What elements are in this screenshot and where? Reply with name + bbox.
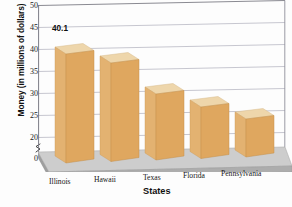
y-tick-45: 45 xyxy=(16,23,38,32)
x-tick-florida: Florida xyxy=(183,171,205,180)
y-tick-0: 0 xyxy=(16,154,38,163)
bar-illinois[interactable] xyxy=(55,44,94,164)
bar-value-illinois: 40.1 xyxy=(52,24,68,33)
x-tick-illinois: Illinois xyxy=(49,177,71,186)
x-axis-title: States xyxy=(143,186,171,196)
bar-texas[interactable] xyxy=(145,84,184,161)
x-tick-pennsylvania: Pennsylvania xyxy=(221,169,262,178)
y-tick-20: 20 xyxy=(16,133,38,142)
y-tick-50: 50 xyxy=(16,1,38,10)
plot-area: 40.1 xyxy=(38,0,292,172)
x-tick-hawaii: Hawaii xyxy=(94,175,116,184)
bar-hawaii[interactable] xyxy=(100,53,139,162)
bar-florida[interactable] xyxy=(190,97,229,159)
y-tick-30: 30 xyxy=(16,89,38,98)
y-tick-35: 35 xyxy=(16,67,38,76)
y-tick-40: 40 xyxy=(16,45,38,54)
x-tick-texas: Texas xyxy=(143,173,161,182)
y-tick-25: 25 xyxy=(16,111,38,120)
bar-chart: Money (in millions of dollars) 50 45 40 … xyxy=(0,0,292,207)
bar-pennsylvania[interactable] xyxy=(235,109,274,158)
